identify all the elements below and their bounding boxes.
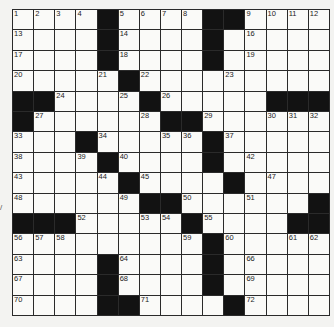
grid-cell[interactable] <box>309 275 329 294</box>
grid-cell[interactable] <box>55 255 75 274</box>
grid-cell[interactable] <box>267 255 287 274</box>
grid-cell[interactable] <box>55 30 75 49</box>
grid-cell[interactable]: 72 <box>245 296 265 315</box>
grid-cell[interactable]: 67 <box>13 275 33 294</box>
grid-cell[interactable]: 17 <box>13 51 33 70</box>
grid-cell[interactable] <box>288 296 308 315</box>
grid-cell[interactable]: 45 <box>140 173 160 192</box>
grid-cell[interactable]: 25 <box>119 92 139 111</box>
grid-cell[interactable]: 32 <box>309 112 329 131</box>
grid-cell[interactable] <box>288 132 308 151</box>
grid-cell[interactable]: 60 <box>224 234 244 253</box>
grid-cell[interactable]: 55 <box>203 214 223 233</box>
grid-cell[interactable] <box>161 275 181 294</box>
grid-cell[interactable] <box>182 51 202 70</box>
grid-cell[interactable]: 5 <box>119 10 139 29</box>
grid-cell[interactable] <box>267 51 287 70</box>
grid-cell[interactable] <box>182 296 202 315</box>
grid-cell[interactable] <box>224 92 244 111</box>
grid-cell[interactable] <box>288 153 308 172</box>
grid-cell[interactable] <box>224 194 244 213</box>
grid-cell[interactable] <box>140 275 160 294</box>
grid-cell[interactable]: 51 <box>245 194 265 213</box>
grid-cell[interactable]: 33 <box>13 132 33 151</box>
grid-cell[interactable] <box>288 194 308 213</box>
grid-cell[interactable] <box>267 194 287 213</box>
grid-cell[interactable] <box>55 132 75 151</box>
grid-cell[interactable] <box>182 173 202 192</box>
grid-cell[interactable]: 21 <box>98 71 118 90</box>
grid-cell[interactable] <box>34 51 54 70</box>
grid-cell[interactable]: 47 <box>267 173 287 192</box>
grid-cell[interactable]: 61 <box>288 234 308 253</box>
grid-cell[interactable] <box>76 234 96 253</box>
grid-cell[interactable]: 8 <box>182 10 202 29</box>
grid-cell[interactable]: 71 <box>140 296 160 315</box>
grid-cell[interactable]: 66 <box>245 255 265 274</box>
grid-cell[interactable] <box>55 275 75 294</box>
grid-cell[interactable] <box>224 214 244 233</box>
grid-cell[interactable] <box>76 194 96 213</box>
grid-cell[interactable] <box>161 255 181 274</box>
grid-cell[interactable] <box>309 296 329 315</box>
grid-cell[interactable]: 68 <box>119 275 139 294</box>
grid-cell[interactable] <box>76 275 96 294</box>
grid-cell[interactable] <box>119 234 139 253</box>
grid-cell[interactable]: 38 <box>13 153 33 172</box>
grid-cell[interactable] <box>267 296 287 315</box>
grid-cell[interactable] <box>119 132 139 151</box>
grid-cell[interactable] <box>98 194 118 213</box>
grid-cell[interactable] <box>34 275 54 294</box>
grid-cell[interactable] <box>161 296 181 315</box>
grid-cell[interactable] <box>55 112 75 131</box>
grid-cell[interactable] <box>34 296 54 315</box>
grid-cell[interactable]: 27 <box>34 112 54 131</box>
grid-cell[interactable] <box>76 92 96 111</box>
grid-cell[interactable] <box>161 234 181 253</box>
grid-cell[interactable] <box>140 255 160 274</box>
grid-cell[interactable]: 7 <box>161 10 181 29</box>
grid-cell[interactable] <box>98 92 118 111</box>
grid-cell[interactable]: 3 <box>55 10 75 29</box>
grid-cell[interactable]: 49 <box>119 194 139 213</box>
grid-cell[interactable]: 34 <box>98 132 118 151</box>
grid-cell[interactable] <box>203 92 223 111</box>
grid-cell[interactable]: 31 <box>288 112 308 131</box>
grid-cell[interactable] <box>140 132 160 151</box>
grid-cell[interactable] <box>309 173 329 192</box>
grid-cell[interactable]: 11 <box>288 10 308 29</box>
grid-cell[interactable] <box>245 112 265 131</box>
grid-cell[interactable]: 14 <box>119 30 139 49</box>
grid-cell[interactable] <box>161 30 181 49</box>
grid-cell[interactable] <box>140 234 160 253</box>
grid-cell[interactable] <box>55 173 75 192</box>
grid-cell[interactable] <box>267 71 287 90</box>
grid-cell[interactable] <box>309 71 329 90</box>
grid-cell[interactable] <box>76 296 96 315</box>
grid-cell[interactable] <box>55 296 75 315</box>
grid-cell[interactable] <box>288 255 308 274</box>
grid-cell[interactable] <box>76 255 96 274</box>
grid-cell[interactable] <box>267 214 287 233</box>
grid-cell[interactable] <box>34 30 54 49</box>
grid-cell[interactable]: 29 <box>203 112 223 131</box>
grid-cell[interactable] <box>245 173 265 192</box>
grid-cell[interactable] <box>182 153 202 172</box>
grid-cell[interactable]: 28 <box>140 112 160 131</box>
grid-cell[interactable] <box>245 234 265 253</box>
grid-cell[interactable] <box>98 214 118 233</box>
grid-cell[interactable] <box>288 275 308 294</box>
grid-cell[interactable] <box>161 173 181 192</box>
grid-cell[interactable]: 52 <box>76 214 96 233</box>
grid-cell[interactable] <box>245 71 265 90</box>
grid-cell[interactable]: 48 <box>13 194 33 213</box>
grid-cell[interactable] <box>203 71 223 90</box>
grid-cell[interactable]: 1 <box>13 10 33 29</box>
grid-cell[interactable]: 59 <box>182 234 202 253</box>
grid-cell[interactable] <box>182 92 202 111</box>
grid-cell[interactable] <box>267 275 287 294</box>
grid-cell[interactable] <box>76 173 96 192</box>
grid-cell[interactable]: 2 <box>34 10 54 29</box>
grid-cell[interactable] <box>309 51 329 70</box>
grid-cell[interactable] <box>182 30 202 49</box>
